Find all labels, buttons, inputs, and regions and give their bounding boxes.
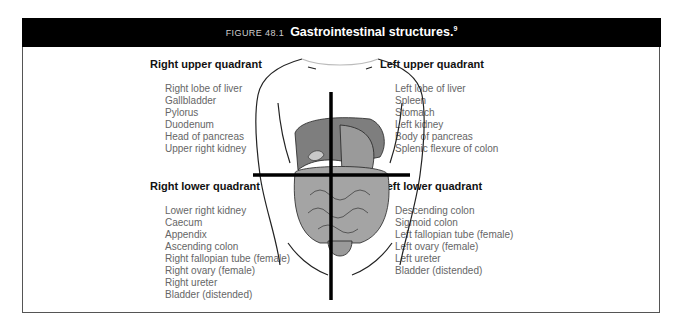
figure-label: FIGURE 48.1 (226, 28, 284, 38)
figure-title: Gastrointestinal structures.9 (290, 25, 457, 39)
figure-title-text: Gastrointestinal structures. (290, 26, 453, 40)
figure-header: FIGURE 48.1 Gastrointestinal structures.… (22, 18, 661, 47)
organs-icon (294, 118, 389, 256)
figure-reference: 9 (453, 25, 457, 32)
torso-illustration (240, 45, 440, 300)
